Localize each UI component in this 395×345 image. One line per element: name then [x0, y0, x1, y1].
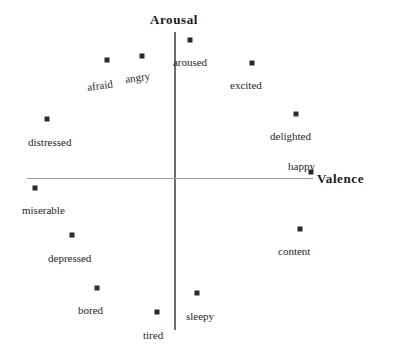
point-label-distressed: distressed — [28, 137, 71, 148]
point-label-sleepy: sleepy — [186, 311, 214, 322]
data-point-angry — [140, 54, 145, 59]
point-label-afraid: afraid — [86, 79, 113, 93]
data-point-content — [298, 227, 303, 232]
data-point-depressed — [70, 233, 75, 238]
point-label-aroused: aroused — [173, 57, 207, 68]
point-label-excited: excited — [230, 80, 262, 91]
point-label-miserable: miserable — [22, 205, 65, 216]
point-label-angry: angry — [124, 71, 150, 85]
valence-axis-line — [27, 178, 313, 179]
data-point-distressed — [45, 117, 50, 122]
data-point-aroused — [188, 38, 193, 43]
point-label-happy: happy — [288, 161, 315, 172]
emotion-circumplex-chart: Arousal Valence arousedangryafraidexcite… — [0, 0, 395, 345]
point-label-bored: bored — [78, 305, 103, 316]
data-point-miserable — [33, 186, 38, 191]
point-label-delighted: delighted — [270, 131, 311, 142]
data-point-delighted — [294, 112, 299, 117]
valence-axis-title: Valence — [317, 171, 364, 187]
data-point-afraid — [105, 58, 110, 63]
data-point-bored — [95, 286, 100, 291]
data-point-tired — [155, 310, 160, 315]
point-label-content: content — [278, 246, 310, 257]
point-label-depressed: depressed — [48, 253, 91, 264]
arousal-axis-title: Arousal — [150, 12, 198, 28]
arousal-axis-line — [174, 32, 176, 330]
data-point-excited — [250, 61, 255, 66]
point-label-tired: tired — [143, 330, 163, 341]
data-point-sleepy — [195, 291, 200, 296]
